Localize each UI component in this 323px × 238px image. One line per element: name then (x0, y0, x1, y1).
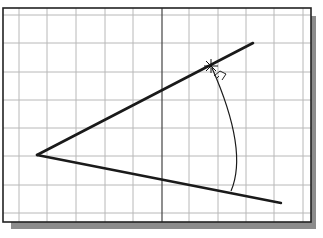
drafting-canvas[interactable] (0, 0, 323, 238)
drawing-area[interactable] (3, 8, 311, 222)
crosshair-star-icon (204, 59, 218, 73)
